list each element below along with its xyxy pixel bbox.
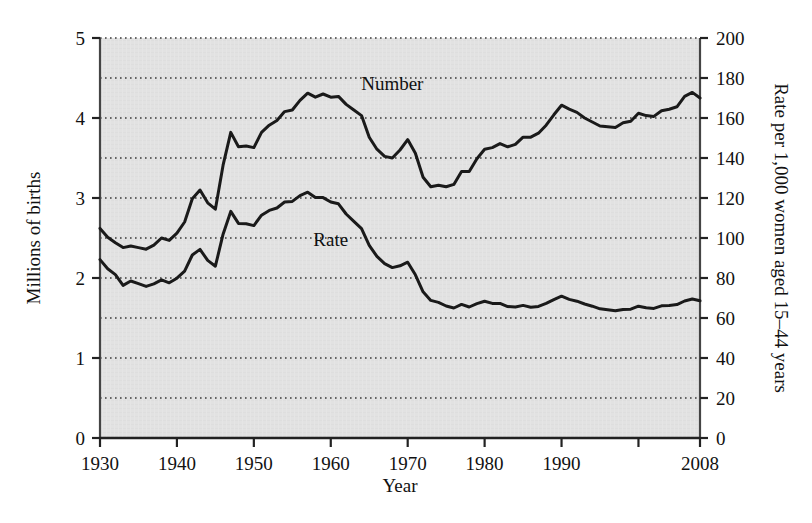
x-tick-label: 1960 [312,453,350,474]
y-tick-label-right: 80 [716,268,735,289]
y-tick-label-left: 4 [76,108,86,129]
series-annotation-rate: Rate [313,229,348,250]
x-tick-label: 1970 [389,453,427,474]
chart-canvas: 19301940195019601970198019902008 012345 … [0,0,812,523]
x-axis-tick-labels: 19301940195019601970198019902008 [81,453,719,474]
y-tick-label-left: 1 [76,348,86,369]
y-tick-label-left: 2 [76,268,86,289]
y-tick-label-right: 60 [716,308,735,329]
y-tick-label-right: 120 [716,188,745,209]
series-annotation-number: Number [361,73,424,94]
y-tick-label-left: 3 [76,188,86,209]
x-axis-ticks [100,438,700,447]
y-tick-label-right: 140 [716,148,745,169]
birth-number-and-rate-chart: 19301940195019601970198019902008 012345 … [0,0,812,523]
y-axis-right-tick-labels: 020406080100120140160180200 [716,28,745,449]
y-tick-label-right: 100 [716,228,745,249]
y-tick-label-left: 0 [76,428,86,449]
x-tick-label: 1950 [235,453,273,474]
y-tick-label-right: 200 [716,28,745,49]
y-axis-right-title: Rate per 1,000 women aged 15–44 years [771,83,792,393]
y-tick-label-left: 5 [76,28,86,49]
x-tick-label: 1940 [158,453,196,474]
y-tick-label-right: 180 [716,68,745,89]
x-tick-label: 1990 [543,453,581,474]
y-axis-left-ticks [92,38,100,438]
y-tick-label-right: 20 [716,388,735,409]
x-tick-label: 2008 [681,453,719,474]
x-tick-label: 1930 [81,453,119,474]
y-axis-left-tick-labels: 012345 [76,28,86,449]
y-tick-label-right: 40 [716,348,735,369]
x-axis-title: Year [382,475,418,496]
y-axis-left-title: Millions of births [23,171,44,304]
x-tick-label: 1980 [466,453,504,474]
y-tick-label-right: 160 [716,108,745,129]
y-tick-label-right: 0 [716,428,726,449]
